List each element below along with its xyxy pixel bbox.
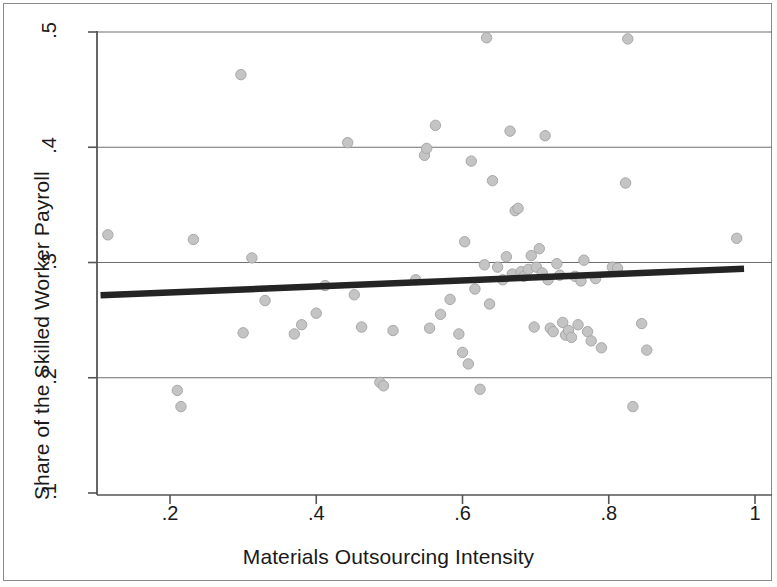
scatter-point (311, 308, 321, 318)
y-tick-label-text: .5 (38, 22, 61, 39)
scatter-point (732, 233, 742, 243)
scatter-point (484, 299, 494, 309)
x-axis-title: Materials Outsourcing Intensity (0, 545, 777, 569)
scatter-point (260, 295, 270, 305)
x-tick-label: .4 (308, 502, 325, 525)
scatter-point (342, 137, 352, 147)
x-tick-label: .6 (454, 502, 471, 525)
scatter-point (289, 329, 299, 339)
scatter-point (492, 262, 502, 272)
scatter-point (457, 347, 467, 357)
scatter-point (103, 230, 113, 240)
y-tick-label-text: .4 (38, 137, 61, 154)
scatter-point (540, 131, 550, 141)
scatter-point (435, 309, 445, 319)
scatter-point (388, 325, 398, 335)
scatter-point (475, 384, 485, 394)
scatter-point (534, 243, 544, 253)
y-tick-label: .5 (29, 19, 69, 42)
scatter-point (552, 258, 562, 268)
scatter-point (470, 284, 480, 294)
scatter-point (529, 322, 539, 332)
scatter-point (566, 332, 576, 342)
scatter-point (172, 385, 182, 395)
y-tick-label: .4 (29, 134, 69, 157)
scatter-point (596, 343, 606, 353)
scatter-point (573, 320, 583, 330)
scatter-point (296, 320, 306, 330)
x-tick-label: 1 (749, 502, 760, 525)
data-points-group (103, 33, 742, 412)
axis-ticks-group (88, 32, 755, 504)
scatter-point (430, 120, 440, 130)
x-tick-label: .8 (600, 502, 617, 525)
scatter-point (238, 328, 248, 338)
scatter-point (176, 401, 186, 411)
scatter-point (466, 156, 476, 166)
y-tick-label-text: .3 (38, 253, 61, 270)
scatter-point (481, 33, 491, 43)
scatter-point (421, 143, 431, 153)
scatter-point (459, 237, 469, 247)
y-tick-label: .1 (29, 480, 69, 503)
x-tick-label: .2 (162, 502, 179, 525)
y-tick-label-text: .2 (38, 368, 61, 385)
y-tick-label: .3 (29, 250, 69, 273)
scatter-point (586, 336, 596, 346)
scatter-point (463, 359, 473, 369)
scatter-point (620, 178, 630, 188)
scatter-point (505, 126, 515, 136)
scatter-point (424, 323, 434, 333)
scatter-point (445, 294, 455, 304)
scatter-point (501, 252, 511, 262)
scatter-point (636, 318, 646, 328)
scatter-point (378, 381, 388, 391)
y-tick-label-text: .1 (38, 483, 61, 500)
scatter-point (487, 175, 497, 185)
scatter-point (579, 255, 589, 265)
scatter-point (188, 234, 198, 244)
scatter-point (513, 203, 523, 213)
scatter-point (349, 290, 359, 300)
scatter-point (623, 34, 633, 44)
y-axis-title: Share of the Skilled Worker Payroll (30, 171, 54, 500)
scatter-point (479, 260, 489, 270)
scatter-point (642, 345, 652, 355)
scatter-point (247, 253, 257, 263)
scatter-plot-canvas (0, 0, 777, 587)
scatter-point (356, 322, 366, 332)
scatter-point (236, 69, 246, 79)
regression-fit-line (101, 269, 745, 296)
scatter-point (548, 326, 558, 336)
scatter-point (454, 329, 464, 339)
y-tick-label: .2 (29, 365, 69, 388)
scatter-point (628, 401, 638, 411)
chart-page: Materials Outsourcing Intensity Share of… (0, 0, 777, 587)
